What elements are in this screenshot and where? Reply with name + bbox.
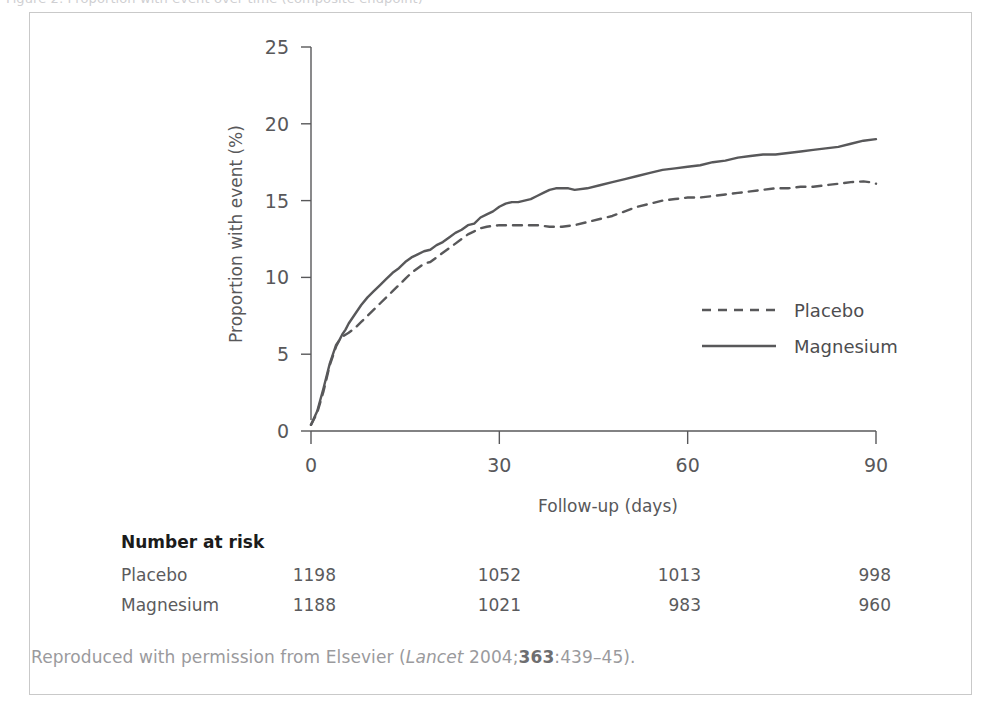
- risk-cell: 1013: [601, 565, 701, 585]
- y-axis-tick-label: 10: [265, 266, 289, 288]
- x-axis-tick-label: 0: [305, 454, 317, 476]
- y-axis-title: Proportion with event (%): [226, 125, 246, 343]
- risk-cell: 1052: [421, 565, 521, 585]
- risk-cell: 1021: [421, 595, 521, 615]
- y-axis-tick-label: 5: [277, 343, 289, 365]
- chart-legend: PlaceboMagnesium: [702, 300, 898, 357]
- risk-cell: 998: [791, 565, 891, 585]
- caption-journal: Lancet: [406, 647, 464, 667]
- legend-label-magnesium: Magnesium: [794, 336, 898, 357]
- x-axis-tick-label: 90: [864, 454, 888, 476]
- caption-year: 2004;: [464, 647, 519, 667]
- risk-cell: 1188: [236, 595, 336, 615]
- risk-cell: 983: [601, 595, 701, 615]
- clipped-header-text: Figure 2: Proportion with event over tim…: [6, 0, 423, 6]
- x-axis-title: Follow-up (days): [538, 496, 678, 516]
- x-axis-tick-label: 60: [676, 454, 700, 476]
- risk-row-label: Magnesium: [121, 595, 219, 615]
- caption-prefix: Reproduced with permission from Elsevier…: [31, 647, 406, 667]
- y-axis-ticks: 0510152025: [265, 36, 311, 442]
- x-axis-ticks: 0306090: [305, 431, 888, 476]
- caption-volume: 363: [519, 647, 555, 667]
- risk-table-heading: Number at risk: [121, 532, 264, 552]
- clipped-header-strip: Figure 2: Proportion with event over tim…: [0, 0, 997, 11]
- number-at-risk-table: Number at risk Placebo 1198 1052 1013 99…: [30, 532, 971, 640]
- series-line-placebo: [311, 181, 876, 424]
- x-axis-tick-label: 30: [487, 454, 511, 476]
- caption-pages: :439–45).: [554, 647, 635, 667]
- y-axis-tick-label: 25: [265, 36, 289, 58]
- series-line-magnesium: [311, 139, 876, 425]
- y-axis-tick-label: 15: [265, 190, 289, 212]
- table-row: Placebo 1198 1052 1013 998: [30, 565, 971, 595]
- legend-label-placebo: Placebo: [794, 300, 864, 321]
- y-axis-tick-label: 0: [277, 420, 289, 442]
- y-axis-tick-label: 20: [265, 113, 289, 135]
- risk-row-label: Placebo: [121, 565, 187, 585]
- data-series-group: [311, 139, 876, 425]
- risk-cell: 1198: [236, 565, 336, 585]
- chart-plot-area: 0510152025 0306090 Proportion with event…: [30, 13, 971, 533]
- figure-frame: 0510152025 0306090 Proportion with event…: [29, 12, 972, 695]
- risk-table-heading-row: Number at risk: [30, 532, 971, 562]
- figure-caption: Reproduced with permission from Elsevier…: [31, 647, 931, 667]
- kaplan-meier-chart: 0510152025 0306090 Proportion with event…: [30, 13, 971, 533]
- table-row: Magnesium 1188 1021 983 960: [30, 595, 971, 625]
- axes-group: [311, 47, 876, 431]
- risk-cell: 960: [791, 595, 891, 615]
